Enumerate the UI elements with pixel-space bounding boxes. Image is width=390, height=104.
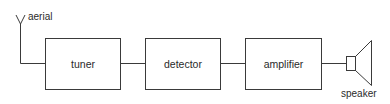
amplifier-block: amplifier [245, 38, 322, 90]
speaker-label: speaker [341, 89, 377, 99]
amplifier-label: amplifier [264, 58, 304, 70]
tuner-label: tuner [71, 58, 95, 70]
detector-label: detector [164, 58, 202, 70]
antenna-icon [16, 15, 25, 64]
detector-block: detector [145, 38, 221, 90]
speaker-icon [347, 41, 372, 86]
tuner-block: tuner [45, 38, 121, 90]
aerial-label: aerial [28, 12, 52, 22]
